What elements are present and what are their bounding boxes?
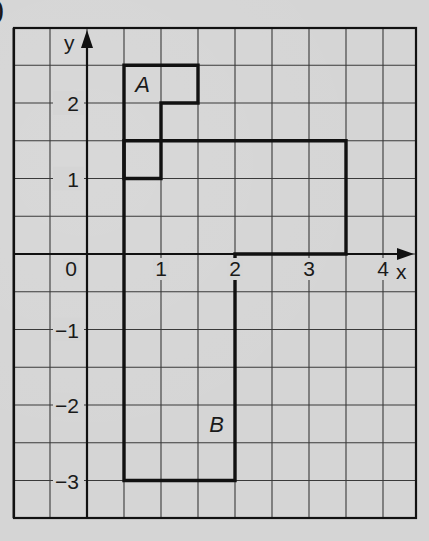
x-axis-arrow-icon [397, 248, 414, 260]
y-tick-label: 1 [67, 168, 79, 191]
y-tick-label: −2 [55, 394, 79, 417]
x-tick-label: 0 [65, 257, 77, 280]
shape-label-b: B [209, 412, 224, 437]
x-tick-label: 1 [155, 257, 167, 280]
x-tick-label: 3 [303, 257, 315, 280]
x-tick-label: 2 [229, 257, 241, 280]
y-tick-label: −3 [55, 470, 79, 493]
y-tick-label: −1 [55, 319, 79, 342]
x-axis-label: x [396, 260, 407, 283]
x-tick-label: 4 [377, 257, 389, 280]
y-axis-label: y [64, 31, 75, 54]
coordinate-grid: x y 0123421−1−2−3 AB2 [0, 0, 429, 541]
shape-label-a: A [133, 72, 150, 97]
y-axis-arrow-icon [81, 30, 93, 48]
y-tick-label: 2 [67, 92, 79, 115]
